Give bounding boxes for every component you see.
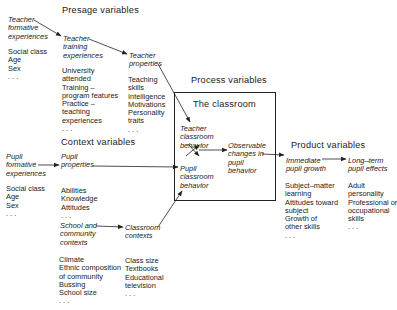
arrow-teacher-to-pupil-behavior (188, 144, 199, 156)
arrow-teacher-properties-to-classroom-behavior (158, 64, 190, 122)
arrow-classroom-contexts-to-pupil-behavior (158, 191, 182, 227)
arrow-school-to-classroom-contexts (96, 226, 123, 227)
arrow-teacher-training-to-properties (89, 39, 127, 54)
arrow-pupil-properties-to-classroom-behavior (93, 166, 178, 167)
arrow-teacher-formative-to-training (34, 20, 61, 36)
arrow-observable-to-immediate-growth (262, 154, 284, 155)
